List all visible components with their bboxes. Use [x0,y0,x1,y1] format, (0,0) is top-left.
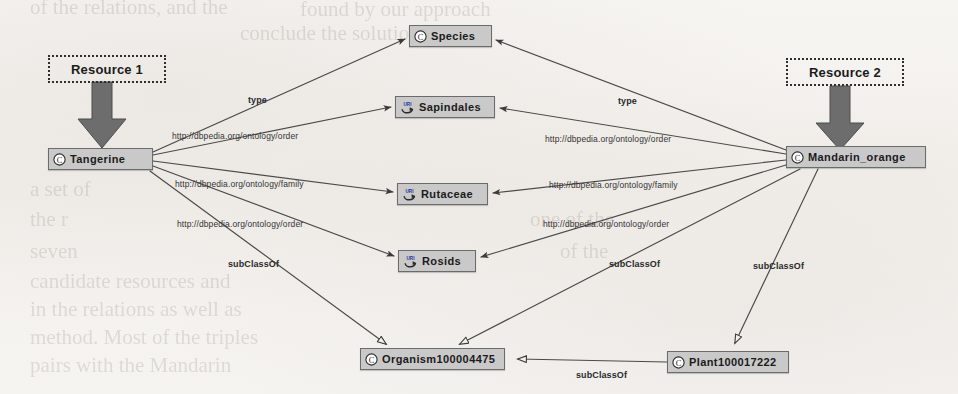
svg-text:C: C [369,355,375,364]
edge-label-order-left-sapindales: http://dbpedia.org/ontology/order [172,131,298,141]
class-c-icon: C [672,356,685,369]
node-label: Mandarin_orange [808,152,906,163]
node-organism100004475[interactable]: C Organism100004475 [360,348,505,370]
svg-text:URI: URI [406,189,414,194]
node-plant100017222[interactable]: C Plant100017222 [667,351,789,373]
svg-text:C: C [795,153,801,162]
edge-label-family-right: http://dbpedia.org/ontology/family [549,180,678,190]
node-label: Species [431,31,475,42]
uri-icon: URI [400,100,415,115]
edge-label-family-left: http://dbpedia.org/ontology/family [175,179,304,189]
edge-label-order-right-sapindales: http://dbpedia.org/ontology/order [545,134,671,144]
resource-1-annotation: Resource 1 [48,55,166,83]
node-tangerine[interactable]: C Tangerine [48,148,153,170]
edge-label-subclassof-left: subClassOf [228,259,279,269]
class-c-icon: C [791,151,804,164]
edge-label-order-left-rosids: http://dbpedia.org/ontology/order [177,219,303,229]
edge-label-subclassof-plant-organism: subClassOf [576,370,627,380]
rdf-graph-diagram: of the relations, and the found by our a… [0,0,958,394]
svg-text:URI: URI [407,256,415,261]
resource1-down-arrow-icon [78,82,126,148]
node-label: Plant100017222 [689,357,777,368]
uri-icon: URI [402,187,417,202]
edge-label-type-left: type [248,95,267,105]
class-c-icon: C [414,30,427,43]
edge-label-subclassof-right-plant: subClassOf [753,261,804,271]
resource-2-annotation: Resource 2 [786,58,904,86]
class-c-icon: C [53,153,66,166]
resource2-down-arrow-icon [816,86,864,150]
svg-text:C: C [57,155,63,164]
node-species[interactable]: C Species [409,25,492,47]
resource-1-label: Resource 1 [71,62,143,77]
edge-label-type-right: type [618,96,637,106]
node-label: Sapindales [419,102,481,113]
edge-label-order-right-rosids: http://dbpedia.org/ontology/order [543,219,669,229]
node-label: Organism100004475 [382,354,495,365]
node-rutaceae[interactable]: URI Rutaceae [397,183,488,205]
node-label: Rosids [422,256,461,267]
svg-text:C: C [418,32,424,41]
resource-2-label: Resource 2 [809,65,881,80]
uri-icon: URI [403,254,418,269]
class-c-icon: C [365,353,378,366]
node-label: Rutaceae [421,189,473,200]
svg-text:C: C [676,358,682,367]
svg-text:URI: URI [404,102,412,107]
edge-label-subclassof-right-organism: subClassOf [609,259,660,269]
node-label: Tangerine [70,154,125,165]
node-rosids[interactable]: URI Rosids [398,250,476,272]
node-sapindales[interactable]: URI Sapindales [395,96,495,118]
node-mandarin-orange[interactable]: C Mandarin_orange [786,146,926,168]
